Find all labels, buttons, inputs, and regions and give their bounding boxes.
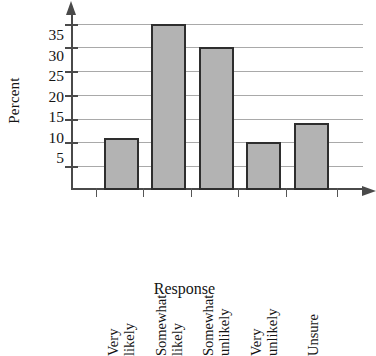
bar xyxy=(151,24,186,190)
gridline xyxy=(71,24,363,25)
y-tick-label-group: 35 30 25 20 15 10 5 xyxy=(28,0,64,308)
y-tick-label: 25 xyxy=(36,68,64,84)
y-tickmark xyxy=(65,166,78,168)
bar xyxy=(199,47,234,190)
y-tick-label: 30 xyxy=(36,48,64,64)
y-tick-label: 35 xyxy=(36,27,64,43)
y-tickmark xyxy=(65,24,78,26)
y-tickmark xyxy=(65,95,78,97)
x-axis-arrow-icon xyxy=(362,186,376,196)
y-tick-label: 10 xyxy=(36,130,64,146)
y-tickmark xyxy=(65,142,78,144)
bar xyxy=(104,138,139,190)
y-tick-label: 15 xyxy=(36,109,64,125)
y-axis-arrow-icon xyxy=(66,1,76,15)
bar xyxy=(294,123,329,190)
y-axis-line xyxy=(71,14,73,190)
y-tick-label: 20 xyxy=(36,89,64,105)
x-tick-label-group: VerylikelySomewhatlikelySomewhatunlikely… xyxy=(71,192,363,278)
plot-area xyxy=(71,14,363,190)
y-tickmark xyxy=(65,119,78,121)
x-axis-title: Response xyxy=(0,280,369,298)
y-tick-label: 5 xyxy=(36,150,64,166)
y-axis-title: Percent xyxy=(6,56,23,146)
bar xyxy=(246,142,281,190)
y-tickmark xyxy=(65,47,78,49)
y-tickmark xyxy=(65,71,78,73)
